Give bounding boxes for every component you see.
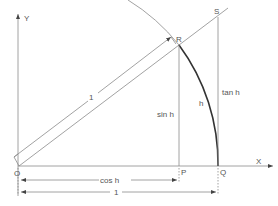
sin-label: sin h xyxy=(157,110,174,119)
point-q-label: Q xyxy=(220,168,226,177)
radius-line-os xyxy=(19,8,228,166)
y-axis-label: Y xyxy=(24,14,30,23)
arc-label: h xyxy=(199,99,203,108)
x-axis-label: X xyxy=(256,157,262,166)
point-s-label: S xyxy=(214,7,219,16)
point-r-label: R xyxy=(176,35,182,44)
arc-upper xyxy=(128,0,179,45)
point-p-label: P xyxy=(181,168,186,177)
radius-label: 1 xyxy=(89,93,94,102)
cos-label: cos h xyxy=(100,176,119,185)
unit-circle-diagram: Y X O 1 h R S xyxy=(0,0,278,206)
radius-dimension-line xyxy=(14,37,176,166)
unit-label: 1 xyxy=(114,188,119,197)
origin-label: O xyxy=(14,169,20,178)
tan-label: tan h xyxy=(222,88,240,97)
